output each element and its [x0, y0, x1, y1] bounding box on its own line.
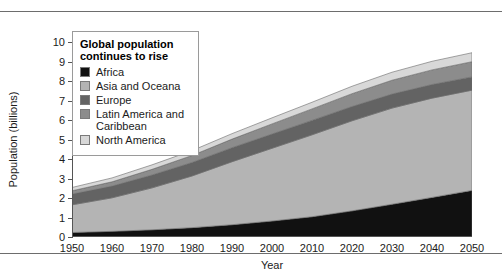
y-tick-mark	[68, 179, 73, 180]
legend-swatch-icon	[80, 67, 90, 77]
legend-item: Asia and Oceana	[80, 80, 191, 92]
x-axis-label: Year	[72, 259, 472, 271]
x-tick-label: 1990	[220, 237, 244, 254]
legend-item-label: Europe	[96, 94, 131, 106]
legend-entries: AfricaAsia and OceanaEuropeLatin America…	[80, 66, 191, 146]
x-tick-label: 1960	[100, 237, 124, 254]
legend-item: Europe	[80, 94, 191, 106]
legend-swatch-icon	[80, 95, 90, 105]
chart-legend: Global population continues to rise Afri…	[72, 31, 199, 156]
x-tick-label: 2040	[420, 237, 444, 254]
x-tick-label: 2030	[380, 237, 404, 254]
legend-item-label: Africa	[96, 66, 124, 78]
legend-item-label: Latin America andCaribbean	[96, 108, 184, 132]
legend-title-line-2: continues to rise	[80, 50, 191, 62]
x-tick-label: 2000	[260, 237, 284, 254]
x-tick-label: 2050	[460, 237, 484, 254]
legend-title-line-1: Global population	[80, 38, 191, 50]
y-tick-mark	[68, 198, 73, 199]
y-axis-label: Population (billions)	[6, 42, 20, 237]
x-tick-label: 2020	[340, 237, 364, 254]
figure-container: Population (billions) 012345678910 19501…	[0, 0, 502, 275]
legend-swatch-icon	[80, 81, 90, 91]
x-tick-label: 1950	[60, 237, 84, 254]
x-tick-label: 2010	[300, 237, 324, 254]
legend-item-label-line-2: Caribbean	[96, 120, 147, 132]
legend-swatch-icon	[80, 109, 90, 119]
legend-item-label: Asia and Oceana	[96, 80, 180, 92]
y-tick-mark	[68, 159, 73, 160]
x-tick-label: 1970	[140, 237, 164, 254]
legend-title: Global population continues to rise	[80, 38, 191, 62]
legend-item: Latin America andCaribbean	[80, 108, 191, 132]
top-divider-rule	[0, 11, 502, 12]
legend-item-label: North America	[96, 134, 166, 146]
legend-item: Africa	[80, 66, 191, 78]
legend-item: North America	[80, 134, 191, 146]
legend-swatch-icon	[80, 135, 90, 145]
x-tick-label: 1980	[180, 237, 204, 254]
y-tick-mark	[68, 218, 73, 219]
